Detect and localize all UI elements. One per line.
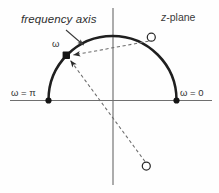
vector-from-lower-zero [71,61,146,162]
z-plane-label-suffix: -plane [166,11,195,23]
zero-lower-right [142,162,150,170]
frequency-axis-label: frequency axis [21,14,97,26]
omega-zero-point [173,97,179,103]
omega-evaluation-point [63,52,70,59]
z-plane-figure: frequency axis z-plane ω = π ω = 0 ω [0,0,219,193]
frequency-axis-callout-arrow [66,30,84,45]
z-plane-label: z-plane [161,12,195,23]
omega-point-label: ω [52,39,59,49]
omega-pi-label: ω = π [11,88,36,98]
zero-upper-right [147,33,155,41]
omega-zero-label: ω = 0 [180,88,204,98]
omega-pi-point [45,97,51,103]
